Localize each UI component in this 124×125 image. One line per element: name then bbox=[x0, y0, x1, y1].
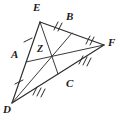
vertex-label-E: E bbox=[33, 2, 40, 13]
centroid-label-Z: Z bbox=[37, 44, 43, 54]
vertex-label-D: D bbox=[3, 104, 11, 115]
point-label-C: C bbox=[66, 78, 73, 89]
point-label-B: B bbox=[66, 11, 73, 22]
geometry-figure: E B F A Z C D bbox=[0, 0, 124, 125]
geometry-canvas bbox=[0, 0, 124, 125]
tick-marks-EA bbox=[24, 38, 32, 42]
point-label-A: A bbox=[11, 49, 18, 60]
vertex-label-F: F bbox=[108, 37, 115, 48]
